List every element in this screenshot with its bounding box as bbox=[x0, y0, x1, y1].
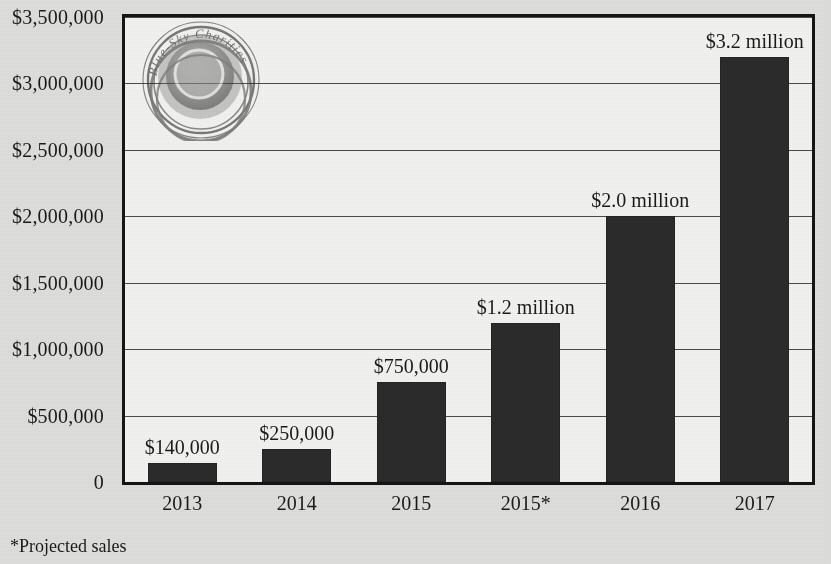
footnote: *Projected sales bbox=[10, 536, 126, 557]
y-axis-tick-label: $500,000 bbox=[0, 404, 114, 427]
gridline bbox=[125, 150, 812, 151]
bar bbox=[606, 216, 675, 482]
x-axis-tick-label: 2015 bbox=[354, 492, 469, 515]
y-axis-tick-label: $2,000,000 bbox=[0, 205, 114, 228]
bar-value-label: $2.0 million bbox=[583, 189, 698, 212]
bar-value-label: $3.2 million bbox=[698, 30, 813, 53]
y-axis-tick-label: $3,000,000 bbox=[0, 72, 114, 95]
bar bbox=[148, 463, 217, 482]
x-axis-tick-label: 2014 bbox=[240, 492, 355, 515]
bar-chart-figure: 0$500,000$1,000,000$1,500,000$2,000,000$… bbox=[0, 0, 831, 564]
plot-area: $140,000$250,000$750,000$1.2 million$2.0… bbox=[122, 14, 815, 485]
bar-value-label: $250,000 bbox=[240, 422, 355, 445]
y-axis-tick-label: $1,000,000 bbox=[0, 338, 114, 361]
x-axis-tick-label: 2015* bbox=[469, 492, 584, 515]
y-axis-tick-label: $1,500,000 bbox=[0, 271, 114, 294]
gridline bbox=[125, 17, 812, 18]
gridline bbox=[125, 83, 812, 84]
bar-value-label: $1.2 million bbox=[469, 296, 584, 319]
bar-value-label: $750,000 bbox=[354, 355, 469, 378]
y-axis-tick-label: 0 bbox=[0, 471, 114, 494]
x-axis-tick-label: 2013 bbox=[125, 492, 240, 515]
bar bbox=[491, 323, 560, 482]
x-axis-tick-label: 2017 bbox=[698, 492, 813, 515]
y-axis-tick-label: $3,500,000 bbox=[0, 6, 114, 29]
bar bbox=[377, 382, 446, 482]
plot-inner: $140,000$250,000$750,000$1.2 million$2.0… bbox=[125, 17, 812, 482]
x-axis: 2013201420152015*20162017 bbox=[122, 492, 815, 522]
gridline bbox=[125, 283, 812, 284]
bar-value-label: $140,000 bbox=[125, 436, 240, 459]
gridline bbox=[125, 416, 812, 417]
y-axis-tick-label: $2,500,000 bbox=[0, 138, 114, 161]
y-axis: 0$500,000$1,000,000$1,500,000$2,000,000$… bbox=[0, 0, 114, 564]
gridline bbox=[125, 349, 812, 350]
bar bbox=[720, 57, 789, 482]
x-axis-tick-label: 2016 bbox=[583, 492, 698, 515]
bar bbox=[262, 449, 331, 482]
gridline bbox=[125, 216, 812, 217]
